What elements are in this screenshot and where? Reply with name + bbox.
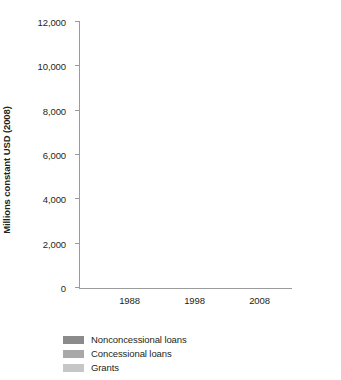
y-tick-label-4000: 4,000 bbox=[43, 194, 66, 205]
chart-legend: Nonconcessional loans Concessional loans… bbox=[63, 334, 187, 373]
x-tick-label-1998: 1998 bbox=[184, 295, 205, 306]
y-tick-label-0: 0 bbox=[61, 283, 66, 294]
y-tick-10000: 10,000 bbox=[75, 65, 80, 66]
x-tick-label-1988: 1988 bbox=[119, 295, 140, 306]
y-tick-label-2000: 2,000 bbox=[43, 238, 66, 249]
y-tick-12000: 12,000 bbox=[75, 21, 80, 22]
legend-swatch-nonconcessional-icon bbox=[63, 336, 84, 344]
legend-label-concessional: Concessional loans bbox=[91, 348, 172, 359]
y-tick-6000: 6,000 bbox=[75, 154, 80, 155]
legend-item-nonconcessional-loans[interactable]: Nonconcessional loans bbox=[63, 334, 187, 345]
legend-item-concessional-loans[interactable]: Concessional loans bbox=[63, 348, 187, 359]
y-tick-label-6000: 6,000 bbox=[43, 150, 66, 161]
legend-label-grants: Grants bbox=[91, 362, 119, 373]
legend-item-grants[interactable]: Grants bbox=[63, 362, 187, 373]
y-tick-2000: 2,000 bbox=[75, 243, 80, 244]
y-tick-8000: 8,000 bbox=[75, 110, 80, 111]
x-tick-label-2008: 2008 bbox=[249, 295, 270, 306]
y-tick-label-12000: 12,000 bbox=[38, 17, 66, 28]
y-tick-label-10000: 10,000 bbox=[38, 61, 66, 72]
y-axis-title: Millions constant USD (2008) bbox=[0, 60, 14, 280]
y-tick-4000: 4,000 bbox=[75, 198, 80, 199]
legend-swatch-concessional-icon bbox=[63, 350, 84, 358]
plot-area: 0 2,000 4,000 6,000 8,000 10,000 12,000 … bbox=[79, 22, 292, 289]
legend-swatch-grants-icon bbox=[63, 364, 84, 372]
y-tick-label-8000: 8,000 bbox=[43, 105, 66, 116]
chart-container: Millions constant USD (2008) 0 2,000 4,0… bbox=[0, 0, 341, 380]
legend-label-nonconcessional: Nonconcessional loans bbox=[91, 334, 187, 345]
y-tick-0: 0 bbox=[75, 287, 80, 288]
